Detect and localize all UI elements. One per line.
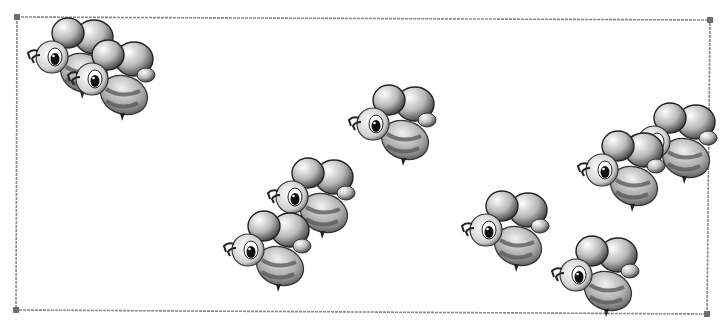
bee-icon: [578, 131, 665, 212]
bee-icon: [552, 236, 639, 317]
frame-handle-bottom-left[interactable]: [13, 307, 19, 313]
bee-icon: [224, 211, 311, 292]
bee-icon: [462, 191, 549, 272]
bee-icon: [349, 85, 436, 166]
bee-icon: [68, 40, 155, 121]
bee-picture-frame: [0, 0, 727, 326]
frame-handle-top-left[interactable]: [14, 14, 20, 20]
frame-handle-bottom-right[interactable]: [704, 311, 710, 317]
frame-handle-top-right[interactable]: [707, 17, 713, 23]
